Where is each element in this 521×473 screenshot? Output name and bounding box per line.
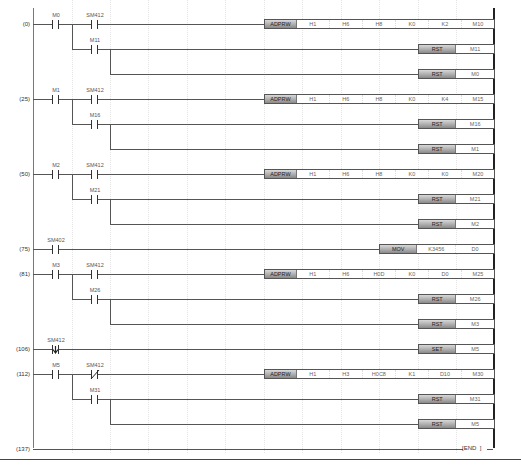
operand: K1 [396,370,429,378]
device-label: M1 [36,87,76,93]
operand: M1 [456,145,494,153]
operand: K4 [429,95,462,103]
instruction-name: ADPRW [265,95,297,103]
operand: M31 [456,395,494,403]
instruction-name: RST [419,395,456,403]
operand: K0 [396,170,429,178]
no-contact-M21[interactable] [88,195,102,204]
instruction-adprw[interactable]: ADPRW H1 H3 H0C8 K1 D10 M30 [264,369,495,379]
branch-wire [110,299,111,325]
step-number: (50) [4,171,30,177]
step-number: (112) [4,371,30,377]
instruction-name: RST [419,420,456,428]
wire [33,274,264,275]
wire [33,174,264,175]
nc-contact-SM412[interactable] [88,370,102,379]
no-contact-M5[interactable] [49,370,63,379]
instruction-rst[interactable]: RST M3 [418,319,495,329]
device-label: M3 [36,262,76,268]
no-contact-SM412[interactable] [88,95,102,104]
device-label: SM412 [75,262,115,268]
operand: D10 [429,370,462,378]
wire [72,124,418,125]
operand: M11 [456,45,494,53]
arrow-down-icon [52,346,59,354]
step-number: (81) [4,271,30,277]
no-contact-M31[interactable] [88,395,102,404]
instruction-adprw[interactable]: ADPRW H1 H6 H8 K0 K2 M10 [264,19,495,29]
instruction-mov[interactable]: MOV K3456 D0 [379,244,495,254]
instruction-name: RST [419,195,456,203]
no-contact-SM412[interactable] [88,20,102,29]
instruction-rst[interactable]: RST M11 [418,44,495,54]
branch-wire [110,124,111,150]
instruction-name: RST [419,145,456,153]
operand: M10 [462,20,494,28]
wire [72,399,418,400]
no-contact-M0[interactable] [49,20,63,29]
grid-line [379,0,380,453]
operand: M30 [462,370,494,378]
instruction-name: RST [419,220,456,228]
wire [87,24,264,25]
wire [33,349,418,350]
no-contact-M1[interactable] [49,95,63,104]
instruction-rst[interactable]: RST M5 [418,419,495,429]
left-power-rail [33,8,34,448]
falling-edge-contact-SM412[interactable] [49,345,63,354]
instruction-name: RST [419,45,456,53]
grid-line [187,0,188,453]
wire [33,249,379,250]
no-contact-SM412[interactable] [88,270,102,279]
no-contact-M26[interactable] [88,295,102,304]
instruction-rst[interactable]: RST M0 [418,69,495,79]
operand: H1 [297,95,330,103]
branch-wire [72,374,73,400]
no-contact-SM412[interactable] [88,170,102,179]
operand: H0D [363,270,396,278]
instruction-rst[interactable]: RST M2 [418,219,495,229]
operand: M5 [456,420,494,428]
instruction-name: RST [419,295,456,303]
step-number: (75) [4,246,30,252]
instruction-name: MOV [380,245,417,253]
branch-wire [110,399,111,425]
wire [33,449,463,450]
instruction-rst[interactable]: RST M26 [418,294,495,304]
instruction-adprw[interactable]: ADPRW H1 H6 H8 K0 K4 M15 [264,94,495,104]
instruction-adprw[interactable]: ADPRW H1 H6 H8 K0 K0 M20 [264,169,495,179]
operand: M21 [456,195,494,203]
instruction-name: RST [419,120,456,128]
operand: K0 [396,270,429,278]
instruction-rst[interactable]: RST M1 [418,144,495,154]
no-contact-M3[interactable] [49,270,63,279]
instruction-adprw[interactable]: ADPRW H1 H6 H0D K0 D0 M25 [264,269,495,279]
operand: H8 [363,20,396,28]
instruction-rst[interactable]: RST M21 [418,194,495,204]
no-contact-SM402[interactable] [49,245,63,254]
device-label: SM402 [36,237,76,243]
wire [110,324,418,325]
device-label: M2 [36,162,76,168]
wire [72,299,418,300]
operand: H1 [297,170,330,178]
instruction-rst[interactable]: RST M16 [418,119,495,129]
wire [33,99,264,100]
wire [33,374,264,375]
operand: M20 [462,170,494,178]
wire [110,224,418,225]
operand: K0 [396,95,429,103]
end-instruction[interactable]: [END ] [462,445,481,451]
instruction-rst[interactable]: RST M31 [418,394,495,404]
instruction-name: RST [419,70,456,78]
no-contact-M16[interactable] [88,120,102,129]
instruction-set[interactable]: SET M5 [418,344,495,354]
operand: K0 [429,170,462,178]
operand: H3 [330,370,363,378]
no-contact-M11[interactable] [88,45,102,54]
operand: D0 [456,245,494,253]
step-number: (0) [4,21,30,27]
end-label: END [464,445,477,451]
no-contact-M2[interactable] [49,170,63,179]
instruction-name: ADPRW [265,370,297,378]
